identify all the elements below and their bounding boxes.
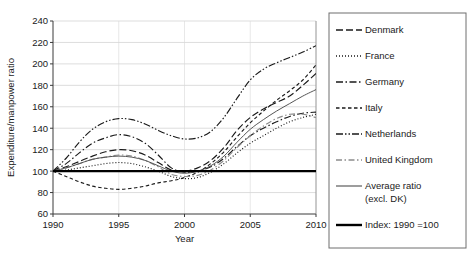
y-tick-label: 180 <box>32 80 48 91</box>
legend: DenmarkFranceGermanyItalyNetherlandsUnit… <box>329 13 466 248</box>
y-tick-label: 100 <box>32 166 48 177</box>
y-tick-label: 120 <box>32 144 48 155</box>
x-tick-label: 2005 <box>240 219 261 230</box>
legend-label-italy: Italy <box>365 102 383 113</box>
x-tick-label: 2010 <box>305 219 326 230</box>
x-tick-label: 2000 <box>174 219 195 230</box>
legend-label-denmark: Denmark <box>365 24 404 35</box>
y-tick-label: 220 <box>32 37 48 48</box>
y-tick-label: 160 <box>32 101 48 112</box>
y-tick-label: 60 <box>37 208 48 219</box>
legend-label-germany: Germany <box>365 76 404 87</box>
y-tick-label: 200 <box>32 58 48 69</box>
y-axis: 6080100120140160180200220240 <box>32 15 53 219</box>
legend-label-france: France <box>365 50 395 61</box>
x-tick-label: 1995 <box>108 219 129 230</box>
y-tick-label: 240 <box>32 15 48 26</box>
y-tick-label: 80 <box>37 187 48 198</box>
chart-figure: 6080100120140160180200220240199019952000… <box>0 0 470 262</box>
legend-label-index: Index: 1990 =100 <box>365 219 439 230</box>
legend-label-united-kingdom: United Kingdom <box>365 154 433 165</box>
legend-label-average-ratio-line-2: (excl. DK) <box>365 193 407 204</box>
legend-label-netherlands: Netherlands <box>365 128 416 139</box>
legend-label-average-ratio: Average ratio <box>365 180 421 191</box>
line-chart: 6080100120140160180200220240199019952000… <box>0 0 470 262</box>
x-axis-title: Year <box>175 233 194 244</box>
x-axis: 19901995200020052010 <box>42 214 326 230</box>
x-tick-label: 1990 <box>42 219 63 230</box>
y-tick-label: 140 <box>32 123 48 134</box>
y-axis-title: Expenditure/manpower ratio <box>5 58 16 177</box>
